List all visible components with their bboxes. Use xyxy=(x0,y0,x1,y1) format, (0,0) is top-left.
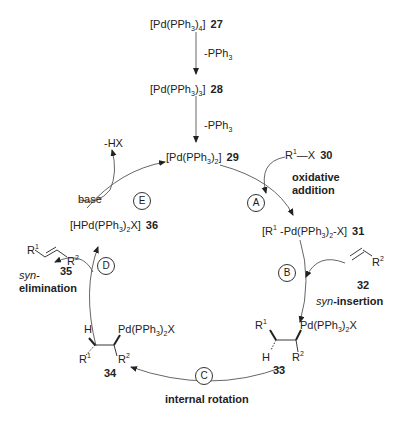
step-a-label-1: oxidative xyxy=(292,172,340,183)
compound-33-h: H xyxy=(262,352,270,363)
compound-33-r1: R1 xyxy=(255,320,267,331)
compound-33-number: 33 xyxy=(273,365,285,376)
compound-36: [HPd(PPh3)2X]36 xyxy=(70,220,158,231)
step-b-label: syn-insertion xyxy=(316,296,383,307)
compound-34-h: H xyxy=(84,324,92,335)
compound-33-pd: Pd(PPh3)2X xyxy=(300,320,357,331)
compound-35-number: 35 xyxy=(60,266,72,277)
compound-34-pd: Pd(PPh3)2X xyxy=(118,324,175,335)
compound-31: [R1 -Pd(PPh3)2-X]31 xyxy=(262,226,364,237)
compound-35-r1: R1 xyxy=(27,245,39,256)
arrow-alkene-in xyxy=(306,260,345,277)
compound-30: R1—X30 xyxy=(285,150,332,161)
reagent-loss-pph3-1: -PPh3 xyxy=(204,48,232,59)
step-badge-d: D xyxy=(97,257,115,275)
compound-33-r2: R2 xyxy=(292,352,304,363)
step-a-label-2: addition xyxy=(292,185,335,196)
compound-27: [Pd(PPh3)4]27 xyxy=(150,19,223,30)
step-c-label: internal rotation xyxy=(165,394,249,405)
step-d-label-1: syn- xyxy=(19,270,40,281)
step-badge-e: E xyxy=(133,192,151,210)
compound-34-number: 34 xyxy=(104,368,116,379)
step-badge-b: B xyxy=(278,264,296,282)
reagent-base: base xyxy=(78,194,102,205)
compound-34-r1: R1 xyxy=(79,354,91,365)
arrow-step-b xyxy=(300,240,306,322)
compound-32-number: 32 xyxy=(357,280,369,291)
compound-34-r2: R2 xyxy=(118,354,130,365)
compound-28: [Pd(PPh3)3]28 xyxy=(150,84,223,95)
step-d-label-2: elimination xyxy=(19,283,77,294)
arrow-r1x-in xyxy=(264,157,285,193)
reagent-loss-pph3-2: -PPh3 xyxy=(204,120,232,131)
step-badge-a: A xyxy=(247,194,265,212)
reagent-hx: -HX xyxy=(104,138,123,149)
step-badge-c: C xyxy=(195,367,213,385)
compound-29: [Pd(PPh3)2]29 xyxy=(166,152,239,163)
compound-32-r2: R2 xyxy=(372,257,384,268)
reaction-arrows xyxy=(0,0,397,426)
